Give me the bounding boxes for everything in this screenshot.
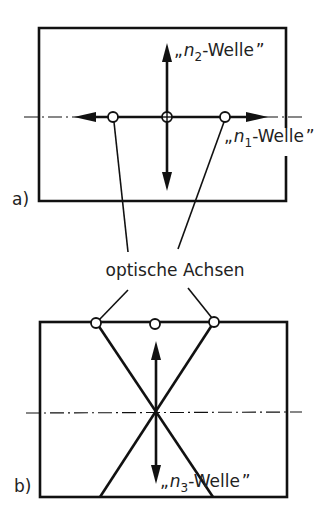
- leader-a-right: [178, 122, 224, 249]
- diagram-stage: „n2-Welle” „n1-Welle” a) optische Achsen: [0, 0, 334, 521]
- arrow-up-icon: [162, 43, 172, 62]
- label-n2-wave: „n2-Welle”: [174, 40, 265, 64]
- center-point: [150, 319, 160, 329]
- panel-b-symmetry-axis: [26, 412, 302, 413]
- leader-b-left: [99, 290, 128, 320]
- optical-axes-caption: optische Achsen: [106, 260, 245, 280]
- arrow-down-icon: [162, 172, 172, 191]
- arrow-up-icon: [151, 341, 161, 360]
- optic-axis-point-right: [209, 317, 219, 327]
- optic-axis-point-left: [91, 318, 101, 328]
- optic-axis-point-left: [108, 112, 118, 122]
- panel-a-label: a): [12, 189, 29, 209]
- optics-diagram: „n2-Welle” „n1-Welle” a) optische Achsen: [0, 0, 334, 521]
- label-n3-wave: „n3-Welle”: [160, 471, 251, 495]
- leader-a-left: [114, 122, 128, 252]
- panel-b: „n3-Welle” b): [14, 317, 302, 497]
- leader-b-right: [188, 288, 212, 318]
- panel-a: „n2-Welle” „n1-Welle” a): [12, 28, 315, 209]
- arrow-right-icon: [246, 112, 268, 122]
- label-n1-wave: „n1-Welle”: [224, 126, 315, 150]
- panel-b-label: b): [14, 476, 31, 496]
- optic-axis-point-right: [220, 112, 230, 122]
- arrow-left-icon: [74, 112, 96, 122]
